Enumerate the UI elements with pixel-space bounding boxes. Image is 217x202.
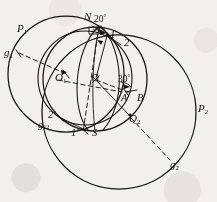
tick-mark-2prime [57, 114, 63, 121]
label-P2: P2 [198, 103, 208, 115]
label-N: N [84, 11, 91, 22]
label-point-B: B [137, 93, 143, 104]
label-point-1: 1 [110, 30, 115, 41]
label-point-2: 2 [124, 38, 129, 49]
label-O: O [91, 72, 99, 83]
label-angle-20deg: 20° [94, 14, 106, 24]
label-point-A: A [121, 93, 127, 104]
arrowhead-meridian [97, 40, 103, 45]
label-Q2: Q2 [129, 113, 140, 125]
point-dot-1 [106, 34, 109, 37]
radius-g1-to-O1 [19, 53, 64, 73]
label-O1: O1 [55, 72, 66, 84]
label-angle-30deg: 30° [118, 74, 130, 84]
label-P1: P1 [17, 23, 27, 35]
label-g1: g1 [4, 47, 13, 59]
segment-A-to-B [126, 90, 137, 92]
label-2prime: 2′ [48, 110, 56, 121]
label-g12: g12 [38, 120, 50, 131]
label-g2: g2 [170, 159, 179, 171]
label-1prime: 1′ [71, 128, 79, 139]
figure-canvas [0, 0, 217, 202]
label-S: S [92, 128, 97, 139]
stereographic-projection-figure: P1 g1 N 20° 1 2 O1 O 30° A B P2 Q2 2′ g1… [0, 0, 217, 202]
